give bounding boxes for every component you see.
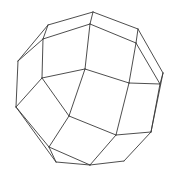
polyhedron-edge (49, 147, 90, 165)
polyhedron-edge (136, 43, 160, 84)
polyhedron-edge (18, 25, 48, 61)
polyhedron-edge (93, 12, 138, 29)
polyhedron-wireframe (0, 0, 173, 180)
polyhedron-edge (69, 116, 116, 135)
polyhedron-edge (48, 12, 93, 25)
polyhedron-edge (42, 39, 43, 78)
polyhedron-edge (85, 24, 90, 69)
polyhedron-edge (138, 29, 163, 73)
polyhedron-edge (151, 73, 163, 132)
polyhedron-edge (16, 107, 49, 147)
polyhedron-edge (85, 69, 129, 83)
polyhedron-edge (90, 24, 136, 43)
polyhedron-edge (42, 78, 69, 116)
polyhedron-edge (116, 83, 129, 135)
polyhedron-edge (129, 83, 160, 84)
polyhedron-edge (16, 61, 18, 107)
polyhedron-edge (124, 132, 151, 161)
polyhedron-edge (90, 12, 93, 24)
polyhedron-edge (116, 132, 151, 135)
polyhedron-edge (16, 78, 42, 107)
polyhedron-edge (136, 29, 138, 43)
polyhedron-edge (90, 135, 116, 165)
polyhedron-edge (69, 69, 85, 116)
polyhedron-edge (49, 116, 69, 147)
polyhedron-figure (0, 0, 173, 180)
polyhedron-edge (90, 161, 124, 165)
polyhedron-edge (16, 107, 56, 162)
polyhedron-edge (129, 43, 136, 83)
polyhedron-edge (42, 69, 85, 78)
polyhedron-edge (43, 25, 48, 39)
polyhedron-edge (43, 24, 90, 39)
polyhedron-edge (18, 39, 43, 61)
